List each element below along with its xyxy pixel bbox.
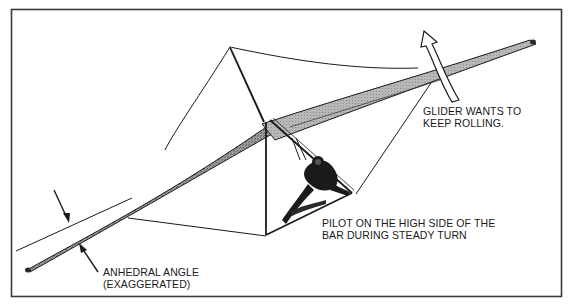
- diagram-figure: GLIDER WANTS TO KEEP ROLLING. PILOT ON T…: [0, 0, 569, 306]
- king-post: [230, 47, 264, 122]
- left-wingtip: [25, 268, 31, 273]
- roll-annotation-line2: KEEP ROLLING.: [423, 118, 521, 130]
- anhedral-annotation-line1: ANHEDRAL ANGLE: [103, 267, 199, 279]
- figure-frame: [12, 10, 562, 297]
- anhedral-annotation-line2: (EXAGGERATED): [103, 279, 199, 291]
- anhedral-reference-line: [16, 198, 132, 251]
- sail-outline: [128, 47, 435, 236]
- right-wingtip: [530, 40, 536, 45]
- glider-illustration: [0, 0, 569, 306]
- pilot-annotation-line1: PILOT ON THE HIGH SIDE OF THE: [322, 218, 495, 230]
- anhedral-label-arrow: [79, 243, 98, 272]
- roll-annotation: GLIDER WANTS TO KEEP ROLLING.: [423, 106, 521, 129]
- roll-annotation-line1: GLIDER WANTS TO: [423, 106, 521, 118]
- anhedral-annotation: ANHEDRAL ANGLE (EXAGGERATED): [103, 267, 199, 290]
- pilot-annotation: PILOT ON THE HIGH SIDE OF THE BAR DURING…: [322, 218, 495, 241]
- pilot-annotation-line2: BAR DURING STEADY TURN: [322, 230, 495, 242]
- anhedral-pointer-arrow: [54, 190, 70, 223]
- left-wing: [27, 124, 272, 272]
